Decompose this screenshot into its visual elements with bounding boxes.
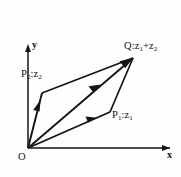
label-point-p2: P2:z2	[21, 69, 42, 81]
axes-group	[25, 44, 170, 151]
label-q-subscript-2: 2	[154, 45, 158, 53]
label-p2-subscript-b: 2	[38, 73, 42, 81]
vector-origin-to-p2	[28, 93, 42, 148]
complex-number-parallelogram-figure: Q:z1+z2 P2:z2 P1:z1 O x y	[0, 0, 181, 177]
label-q-prefix: Q:z	[124, 40, 139, 51]
vector-origin-to-p2-arrowhead	[33, 100, 40, 112]
y-axis-arrowhead	[25, 44, 31, 52]
segment-p2-to-q	[42, 58, 133, 93]
label-x-axis: x	[167, 150, 172, 160]
figure-canvas	[0, 0, 181, 177]
label-q-plus: +z	[143, 40, 154, 51]
vector-origin-to-q	[28, 58, 133, 148]
vector-origin-to-p1	[28, 112, 110, 148]
parallelogram-sides-group	[42, 58, 133, 112]
label-origin: O	[18, 152, 26, 163]
label-p1-subscript-b: 1	[129, 114, 133, 122]
vector-origin-to-p1-shaft	[28, 112, 110, 148]
label-point-p1: P1:z1	[112, 110, 133, 122]
label-point-q: Q:z1+z2	[124, 41, 157, 53]
label-y-axis: y	[32, 40, 37, 50]
vector-origin-to-q-shaft	[28, 58, 133, 148]
